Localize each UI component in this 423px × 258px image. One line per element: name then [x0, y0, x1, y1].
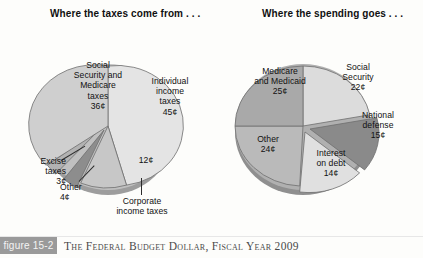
left-panel-title: Where the taxes come from . . . — [50, 8, 200, 19]
figure-container: Where the taxes come from . . . Where th… — [0, 0, 423, 258]
leader-corporate — [141, 178, 142, 195]
label-social-security-medicare-taxes: Social Security and Medicare taxes 36¢ — [62, 60, 134, 111]
taxes-pie-chart — [0, 22, 210, 222]
label-individual-income-taxes: Individual income taxes 45¢ — [139, 76, 201, 117]
figure-number-badge: figure 15-2 — [0, 237, 57, 254]
label-other-taxes: Other 4¢ — [60, 182, 104, 202]
label-other-spending: Other 24¢ — [244, 134, 292, 154]
label-excise-taxes: Excise taxes 3¢ — [10, 156, 66, 187]
figure-badge-number: 15-2 — [33, 240, 54, 251]
label-national-defense: National defense 15¢ — [348, 110, 408, 141]
label-corporate-income-taxes: Corporate income taxes — [104, 196, 180, 216]
figure-badge-word: figure — [3, 240, 29, 251]
label-social-security: Social Security 22¢ — [330, 62, 386, 93]
label-corporate-income-taxes-value: 12¢ — [133, 155, 159, 165]
right-panel-title: Where the spending goes . . . — [262, 8, 403, 19]
figure-caption-bar: figure 15-2 The Federal Budget Dollar, F… — [0, 237, 423, 254]
label-interest-on-debt: Interest on debt 14¢ — [304, 148, 358, 179]
label-medicare-and-medicaid: Medicare and Medicaid 25¢ — [240, 66, 320, 97]
figure-caption-text: The Federal Budget Dollar, Fiscal Year 2… — [57, 237, 423, 254]
